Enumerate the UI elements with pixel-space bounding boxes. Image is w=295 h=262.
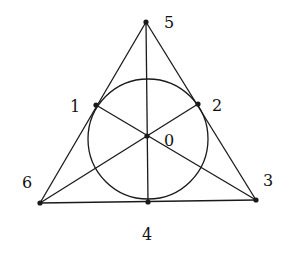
point-6: [37, 200, 42, 205]
point-label-3: 3: [263, 171, 273, 190]
line-p5-p6: [40, 22, 146, 203]
point-0: [144, 133, 149, 138]
line-p5-p4: [146, 22, 148, 202]
point-label-5: 5: [164, 13, 174, 32]
point-label-2: 2: [212, 96, 222, 115]
point-label-0: 0: [164, 131, 174, 150]
point-4: [145, 199, 150, 204]
point-label-4: 4: [142, 225, 152, 244]
point-label-6: 6: [22, 173, 32, 192]
fano-plane-diagram: 0123456: [0, 0, 295, 262]
point-5: [143, 19, 148, 24]
point-2: [195, 101, 200, 106]
point-1: [93, 102, 98, 107]
point-label-1: 1: [70, 97, 80, 116]
point-3: [253, 197, 258, 202]
